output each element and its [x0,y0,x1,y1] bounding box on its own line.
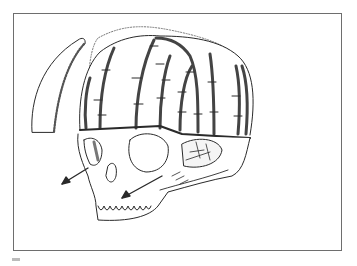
skull-illustration [0,0,357,266]
skull-face [78,134,250,221]
advancement-arrow-left [62,168,88,184]
removed-bone-flap [32,38,85,132]
corner-mark [12,258,20,261]
cranial-vault-outline [80,36,253,135]
